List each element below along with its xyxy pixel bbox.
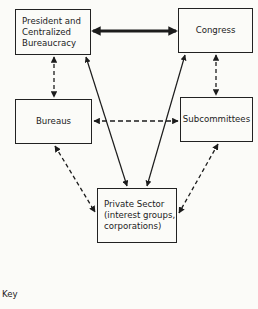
- power-relationships-diagram: President and Centralized Bureaucracy Co…: [0, 0, 258, 309]
- node-congress-label: Congress: [196, 25, 236, 36]
- edge-subcommittees-private-sector: [179, 144, 218, 213]
- key-label: Key: [2, 289, 18, 299]
- node-subcommittees-label: Subcommittees: [183, 114, 250, 125]
- node-private-sector: Private Sector (interest groups, corpora…: [97, 188, 177, 243]
- node-president-label: President and Centralized Bureaucracy: [22, 16, 81, 49]
- node-president: President and Centralized Bureaucracy: [15, 9, 91, 55]
- node-private-sector-label: Private Sector (interest groups, corpora…: [104, 199, 175, 232]
- edge-bureaus-private-sector: [55, 146, 95, 212]
- node-bureaus-label: Bureaus: [36, 116, 71, 127]
- node-bureaus: Bureaus: [15, 99, 92, 144]
- node-congress: Congress: [178, 8, 253, 53]
- node-subcommittees: Subcommittees: [180, 97, 253, 142]
